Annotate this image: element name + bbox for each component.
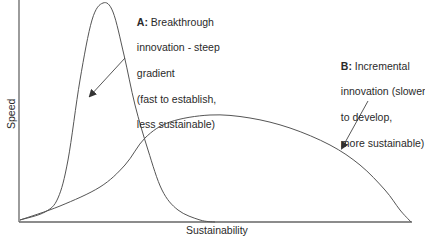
y-axis-label: Speed [5,99,17,129]
arrow-a-icon [90,58,125,96]
annotation-b-prefix: B: [341,60,352,72]
annotation-b-line-4: more sustainable) [341,137,424,149]
annotation-a-prefix: A: [137,16,148,28]
annotation-a-line-4: (fast to establish, [137,93,216,105]
annotation-a: A: Breakthrough innovation - steep gradi… [131,3,220,131]
annotation-a-line-1: Breakthrough [148,16,214,28]
annotation-b-line-1: Incremental [352,60,410,72]
annotation-a-line-2: innovation - steep [137,41,220,53]
x-axis-label: Sustainability [186,224,248,236]
annotation-a-line-5: less sustainable) [137,118,215,130]
annotation-b: B: Incremental innovation (slower to dev… [335,47,425,149]
annotation-b-line-2: innovation (slower [341,85,425,97]
annotation-a-line-3: gradient [137,67,175,79]
annotation-b-line-3: to develop, [341,111,392,123]
